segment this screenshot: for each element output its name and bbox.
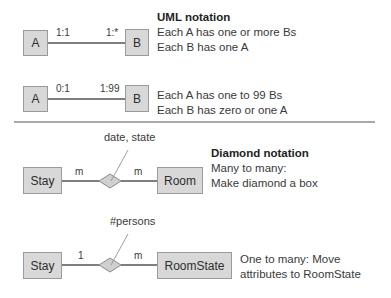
relationship-diamond-2 bbox=[99, 258, 121, 272]
diamond-description-line: One to many: Move bbox=[240, 252, 340, 267]
entity-box-room: Room bbox=[157, 167, 203, 194]
entity-label: A bbox=[31, 36, 39, 50]
entity-label: RoomState bbox=[164, 259, 224, 273]
multiplicity-label-right: m bbox=[134, 166, 142, 177]
entity-box-stay: Stay bbox=[23, 167, 62, 194]
entity-box-stay: Stay bbox=[23, 252, 62, 279]
multiplicity-label-a: 0:1 bbox=[56, 83, 70, 94]
entity-label: A bbox=[31, 92, 39, 106]
entity-label: Room bbox=[164, 174, 196, 188]
entity-box-b: B bbox=[125, 29, 149, 56]
multiplicity-label-right: m bbox=[134, 250, 142, 261]
multiplicity-label-b: 1:* bbox=[106, 27, 118, 38]
multiplicity-label-left: 1 bbox=[78, 250, 84, 261]
uml-description-line: Each B has zero or one A bbox=[157, 103, 287, 118]
entity-label: Stay bbox=[30, 259, 54, 273]
multiplicity-label-left: m bbox=[75, 166, 83, 177]
uml-description-line: Each A has one or more Bs bbox=[157, 25, 296, 40]
diamond-notation-title: Diamond notation bbox=[211, 146, 309, 161]
diamond-description-line: attributes to RoomState bbox=[240, 267, 361, 282]
entity-label: B bbox=[133, 92, 141, 106]
entity-box-a: A bbox=[23, 30, 48, 56]
uml-description-line: Each B has one A bbox=[157, 40, 248, 55]
entity-box-roomstate: RoomState bbox=[157, 252, 232, 279]
relationship-attributes: date, state bbox=[104, 131, 155, 143]
diamond-description-line: Many to many: bbox=[211, 161, 286, 176]
entity-box-b: B bbox=[125, 85, 149, 112]
relationship-attributes: #persons bbox=[110, 215, 155, 227]
entity-box-a: A bbox=[23, 86, 48, 112]
uml-description-line: Each A has one to 99 Bs bbox=[157, 88, 282, 103]
diamond-description-line: Make diamond a box bbox=[211, 176, 318, 191]
attribute-pointer-2 bbox=[111, 234, 128, 265]
entity-label: B bbox=[133, 36, 141, 50]
attribute-pointer-1 bbox=[111, 150, 128, 181]
uml-notation-title: UML notation bbox=[157, 10, 230, 25]
entity-label: Stay bbox=[30, 174, 54, 188]
relationship-diamond-1 bbox=[99, 174, 121, 188]
multiplicity-label-a: 1:1 bbox=[56, 27, 70, 38]
multiplicity-label-b: 1:99 bbox=[100, 83, 119, 94]
